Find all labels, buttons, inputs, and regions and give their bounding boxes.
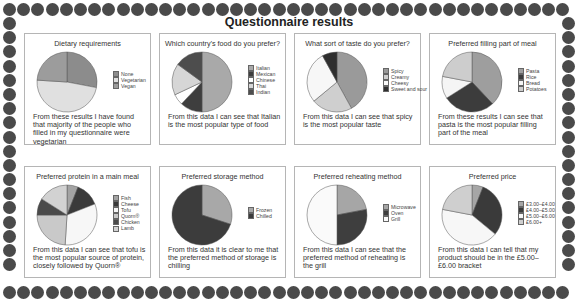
legend-item: Potatoes xyxy=(518,86,546,92)
chart-panel: Preferred reheating methodMicrowaveOvenG… xyxy=(294,166,421,278)
legend-swatch xyxy=(248,213,254,219)
chart-caption: From these results I have found that maj… xyxy=(33,113,146,146)
dot-column xyxy=(3,17,16,272)
chart-title: Preferred storage method xyxy=(160,172,285,181)
legend-swatch xyxy=(248,71,254,77)
legend-swatch xyxy=(518,201,524,207)
chart-panel: Preferred protein in a main mealFishChee… xyxy=(24,166,151,278)
legend-swatch xyxy=(383,216,389,222)
chart-panel: Preferred price£3.00–£4.00£4.00–£5.00£5.… xyxy=(429,166,556,278)
pie-slice xyxy=(67,52,97,88)
legend-label: Grill xyxy=(391,216,400,222)
legend-label: Potatoes xyxy=(526,86,546,92)
pie-slice xyxy=(202,52,232,112)
page-title: Questionnaire results xyxy=(0,15,578,29)
pie-chart xyxy=(35,183,99,247)
legend-swatch xyxy=(383,68,389,74)
chart-legend: £3.00–£4.00£4.00–£5.00£5.00–£6.00£6.00+ xyxy=(518,201,555,225)
legend-swatch xyxy=(113,213,119,219)
chart-title: Which country’s food do you prefer? xyxy=(160,39,285,48)
chart-panel: Preferred filling part of mealPastaRiceB… xyxy=(429,33,556,145)
legend-swatch xyxy=(248,89,254,95)
legend-swatch xyxy=(248,65,254,71)
legend-swatch xyxy=(383,74,389,80)
chart-title: Preferred filling part of meal xyxy=(430,39,555,48)
pie-chart xyxy=(440,183,504,247)
legend-swatch xyxy=(113,83,119,89)
chart-caption: From this data I can see that the prefer… xyxy=(303,246,416,271)
legend-swatch xyxy=(518,219,524,225)
legend-swatch xyxy=(518,207,524,213)
pie-chart xyxy=(440,50,504,114)
legend-swatch xyxy=(383,210,389,216)
chart-caption: From this data I can tell that my produc… xyxy=(438,246,551,271)
legend-swatch xyxy=(113,195,119,201)
legend-swatch xyxy=(518,74,524,80)
legend-label: £6.00+ xyxy=(526,219,542,225)
dot-row xyxy=(3,286,571,300)
legend-label: Vegan xyxy=(121,83,136,89)
pie-chart xyxy=(170,183,234,247)
legend-item: £6.00+ xyxy=(518,219,555,225)
legend-swatch xyxy=(113,77,119,83)
chart-panel: Preferred storage methodFrozenChilledFro… xyxy=(159,166,286,278)
legend-item: Grill xyxy=(383,216,416,222)
legend-label: Chilled xyxy=(256,213,272,219)
legend-swatch xyxy=(518,68,524,74)
legend-swatch xyxy=(248,207,254,213)
pie-chart xyxy=(170,50,234,114)
chart-panel: What sort of taste do you prefer?SpicyCr… xyxy=(294,33,421,145)
chart-legend: PastaRiceBreadPotatoes xyxy=(518,68,546,92)
legend-swatch xyxy=(113,226,119,232)
chart-panel: Dietary requirementsNoneVegetarianVeganF… xyxy=(24,33,151,145)
legend-swatch xyxy=(248,77,254,83)
chart-caption: From this data I can see that Italian is… xyxy=(168,113,281,129)
legend-label: Indian xyxy=(256,89,270,95)
legend-label: Lamb xyxy=(121,225,134,231)
pie-slice xyxy=(307,185,337,245)
legend-swatch xyxy=(518,213,524,219)
chart-title: Preferred price xyxy=(430,172,555,181)
chart-legend: FishCheeseTofuQuorn®ChickenLamb xyxy=(113,195,140,232)
legend-swatch xyxy=(113,201,119,207)
legend-item: Vegan xyxy=(113,83,146,89)
pie-slice xyxy=(37,52,67,82)
legend-swatch xyxy=(113,71,119,77)
chart-caption: From this data I can see that spicy is t… xyxy=(303,113,416,129)
chart-legend: SpicyCreamyCheesySweet and sour xyxy=(383,68,427,92)
chart-legend: ItalianMexicanChineseThaiIndian xyxy=(248,65,275,95)
chart-legend: FrozenChilled xyxy=(248,207,272,219)
chart-caption: From this data I can see that tofu is th… xyxy=(33,246,146,271)
chart-title: Preferred reheating method xyxy=(295,172,420,181)
chart-legend: MicrowaveOvenGrill xyxy=(383,204,416,222)
dot-column xyxy=(562,17,575,272)
legend-item: Lamb xyxy=(113,225,140,231)
legend-swatch xyxy=(383,80,389,86)
legend-item: Indian xyxy=(248,89,275,95)
legend-item: Sweet and sour xyxy=(383,86,427,92)
chart-title: Preferred protein in a main meal xyxy=(25,172,150,181)
legend-swatch xyxy=(383,204,389,210)
legend-swatch xyxy=(518,86,524,92)
pie-chart xyxy=(305,183,369,247)
chart-caption: From these results I can see that pasta … xyxy=(438,113,551,138)
pie-chart xyxy=(35,50,99,114)
legend-swatch xyxy=(113,207,119,213)
legend-swatch xyxy=(113,219,119,225)
chart-panel: Which country’s food do you prefer?Itali… xyxy=(159,33,286,145)
legend-swatch xyxy=(518,80,524,86)
pie-slice xyxy=(37,215,67,245)
legend-swatch xyxy=(383,86,389,92)
chart-legend: NoneVegetarianVegan xyxy=(113,71,146,89)
chart-title: Dietary requirements xyxy=(25,39,150,48)
chart-caption: From this data it is clear to me that th… xyxy=(168,246,281,271)
pie-chart xyxy=(305,50,369,114)
pie-slice xyxy=(337,209,367,245)
legend-item: Chilled xyxy=(248,213,272,219)
legend-label: Sweet and sour xyxy=(391,86,427,92)
chart-title: What sort of taste do you prefer? xyxy=(295,39,420,48)
legend-swatch xyxy=(248,83,254,89)
